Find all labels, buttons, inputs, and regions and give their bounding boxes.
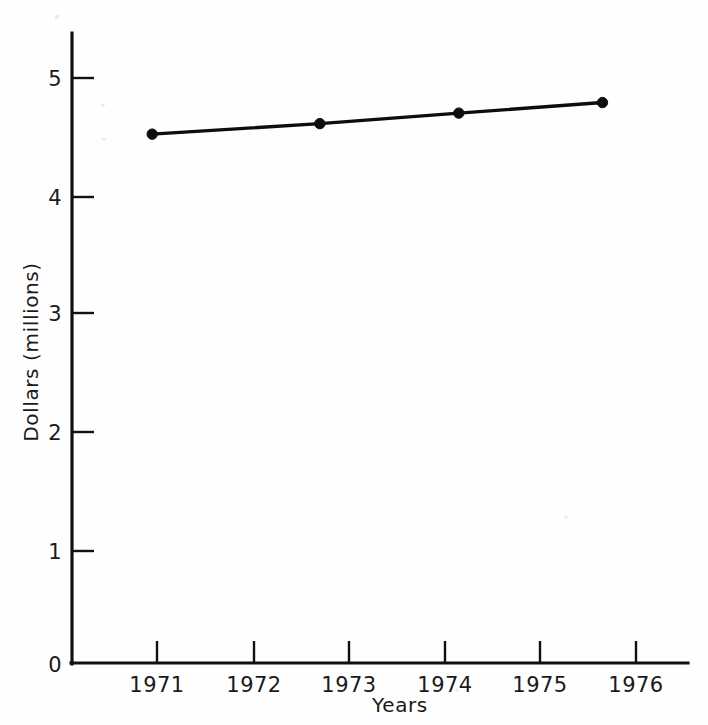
chart-page: 5 4 3 2 1 0 Dollars (millions) 1971 1972… [0,0,708,725]
scan-speck [55,15,59,19]
data-point-1972 [315,118,325,128]
data-point-1973 [454,108,464,118]
y-tick-label-4: 4 [48,186,62,210]
x-tick-label-1971: 1971 [129,673,184,697]
x-tick-label-1973: 1973 [321,673,376,697]
data-point-1974 [597,97,607,107]
chart-background [0,0,708,725]
y-tick-label-5: 5 [48,67,62,91]
scan-speck [564,515,567,518]
scan-speck [102,137,105,140]
x-tick-label-1972: 1972 [226,673,281,697]
x-tick-label-1976: 1976 [608,673,663,697]
y-tick-label-2: 2 [48,421,62,445]
y-tick-label-1: 1 [48,540,62,564]
x-axis-title: Years [371,693,428,717]
data-point-1971 [147,129,157,139]
line-chart: 5 4 3 2 1 0 Dollars (millions) 1971 1972… [0,0,708,725]
y-axis-title: Dollars (millions) [19,262,43,441]
scan-speck [101,103,105,107]
y-tick-label-0: 0 [48,653,62,677]
y-tick-label-3: 3 [48,302,62,326]
x-tick-label-1975: 1975 [512,673,567,697]
